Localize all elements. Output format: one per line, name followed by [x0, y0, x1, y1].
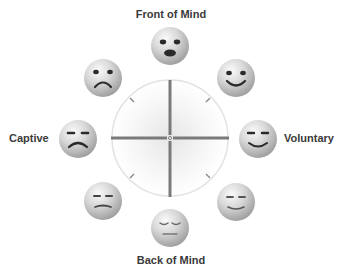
face-bored-icon	[84, 182, 122, 220]
face-sad-frown-icon	[59, 120, 97, 158]
face-surprised-icon	[151, 27, 189, 65]
face-smiling-icon	[217, 59, 255, 97]
face-sad-icon	[84, 59, 122, 97]
mood-wheel-diagram	[0, 0, 342, 274]
face-content-icon	[239, 120, 277, 158]
face-relaxed-icon	[217, 183, 255, 221]
face-sleepy-icon	[151, 209, 189, 247]
center-point	[169, 137, 172, 140]
